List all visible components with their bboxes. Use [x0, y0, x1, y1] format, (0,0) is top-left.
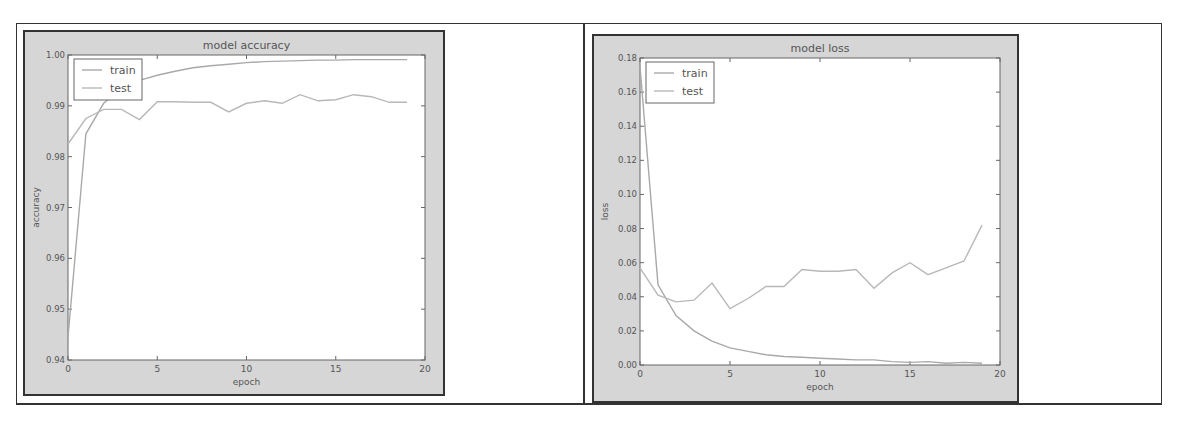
legend-label-test: test [682, 85, 704, 98]
loss-ytick-label: 0.16 [618, 87, 637, 97]
loss-ytick-label: 0.12 [618, 155, 637, 165]
accuracy-ytick-label: 1.00 [46, 50, 65, 60]
accuracy-xtick-label: 5 [154, 364, 160, 374]
loss-xtick-label: 15 [904, 369, 915, 379]
loss-chart: model loss0.000.020.040.060.080.100.120.… [594, 36, 1017, 401]
accuracy-plot-area [68, 55, 425, 360]
loss-ytick-label: 0.06 [618, 258, 637, 268]
loss-ytick-label: 0.08 [618, 224, 637, 234]
loss-ytick-label: 0.00 [618, 360, 637, 370]
loss-ytick-label: 0.10 [618, 189, 637, 199]
accuracy-ytick-label: 0.97 [46, 203, 65, 213]
accuracy-xtick-label: 10 [241, 364, 253, 374]
loss-xlabel: epoch [806, 382, 833, 392]
loss-ytick-label: 0.04 [618, 292, 637, 302]
loss-xtick-label: 5 [727, 369, 733, 379]
accuracy-legend: traintest [74, 59, 142, 100]
accuracy-ytick-label: 0.99 [46, 101, 65, 111]
accuracy-xtick-label: 20 [419, 364, 431, 374]
loss-ytick-label: 0.14 [618, 121, 637, 131]
legend-label-test: test [110, 82, 132, 95]
loss-ytick-label: 0.02 [618, 326, 637, 336]
accuracy-ylabel: accuracy [31, 187, 41, 228]
loss-xtick-label: 0 [637, 369, 643, 379]
loss-xtick-label: 10 [814, 369, 826, 379]
accuracy-xtick-label: 15 [330, 364, 341, 374]
loss-xtick-label: 20 [994, 369, 1006, 379]
loss-ytick-label: 0.18 [618, 53, 637, 63]
accuracy-title: model accuracy [203, 39, 291, 52]
accuracy-figure: model accuracy0.940.950.960.970.980.991.… [23, 30, 445, 396]
accuracy-ytick-label: 0.95 [46, 304, 65, 314]
legend-label-train: train [110, 64, 136, 77]
table-divider [583, 23, 585, 405]
accuracy-ytick-label: 0.96 [46, 253, 65, 263]
accuracy-xlabel: epoch [233, 377, 260, 387]
accuracy-xtick-label: 0 [65, 364, 71, 374]
loss-legend: traintest [646, 62, 714, 103]
legend-label-train: train [682, 67, 708, 80]
accuracy-ytick-label: 0.94 [46, 355, 65, 365]
loss-title: model loss [791, 42, 850, 55]
accuracy-ytick-label: 0.98 [46, 152, 65, 162]
loss-ylabel: loss [600, 202, 610, 220]
loss-figure: model loss0.000.020.040.060.080.100.120.… [592, 34, 1019, 403]
loss-plot-area [640, 58, 1000, 365]
accuracy-chart: model accuracy0.940.950.960.970.980.991.… [25, 32, 443, 394]
